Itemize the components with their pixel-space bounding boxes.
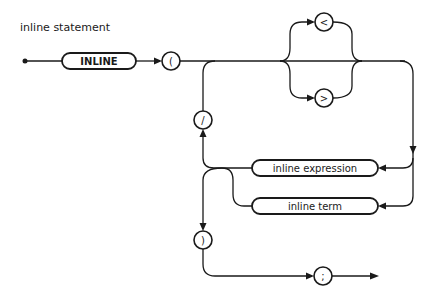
syntax-diagram: INLINE ( < > / inline expression bbox=[0, 0, 440, 299]
branch-less-than-in bbox=[280, 22, 313, 61]
keyword-inline-label: INLINE bbox=[80, 56, 118, 67]
start-dot bbox=[23, 59, 28, 64]
exit-rail bbox=[203, 168, 222, 226]
arrow-head bbox=[200, 129, 207, 137]
inline-term-label: inline term bbox=[288, 201, 342, 212]
arrow-head bbox=[307, 19, 315, 26]
greater-than-label: > bbox=[320, 93, 328, 104]
keyword-inline-node[interactable]: INLINE bbox=[62, 53, 136, 69]
slash-node[interactable]: / bbox=[194, 111, 212, 129]
right-rail bbox=[400, 61, 413, 150]
arrow-head bbox=[378, 165, 386, 172]
inline-expression-node[interactable]: inline expression bbox=[252, 160, 378, 176]
branch-less-than-out bbox=[333, 22, 362, 61]
branch-greater-than-out bbox=[333, 61, 362, 98]
semicolon-label: ; bbox=[321, 271, 324, 282]
close-paren-node[interactable]: ) bbox=[194, 231, 212, 249]
open-paren-label: ( bbox=[169, 56, 173, 67]
inline-term-node[interactable]: inline term bbox=[252, 198, 378, 214]
arrow-head bbox=[306, 273, 314, 280]
loop-back-rail bbox=[203, 133, 252, 168]
end-arrow-head bbox=[370, 273, 379, 280]
close-paren-label: ) bbox=[201, 235, 205, 246]
inline-expression-label: inline expression bbox=[273, 163, 357, 174]
branch-greater-than-in bbox=[280, 61, 313, 98]
greater-than-node[interactable]: > bbox=[315, 89, 333, 107]
term-join bbox=[222, 168, 252, 206]
less-than-node[interactable]: < bbox=[315, 13, 333, 31]
right-rail-expr bbox=[386, 158, 413, 168]
arrow-head bbox=[154, 58, 162, 65]
arrow-head bbox=[307, 95, 315, 102]
arrow-head bbox=[378, 203, 386, 210]
connector bbox=[203, 249, 312, 276]
arrow-head bbox=[200, 223, 207, 231]
open-paren-node[interactable]: ( bbox=[162, 52, 180, 70]
semicolon-node[interactable]: ; bbox=[314, 267, 332, 285]
right-rail-term bbox=[386, 150, 413, 206]
less-than-label: < bbox=[320, 17, 328, 28]
left-rail-top bbox=[203, 61, 215, 111]
